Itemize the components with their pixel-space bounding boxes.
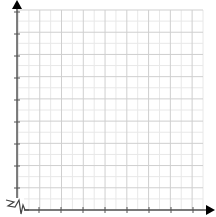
x-axis-arrow-icon xyxy=(206,205,215,215)
coordinate-grid xyxy=(0,0,216,217)
y-axis-arrow-icon xyxy=(12,0,22,9)
minor-grid-lines xyxy=(18,10,203,210)
